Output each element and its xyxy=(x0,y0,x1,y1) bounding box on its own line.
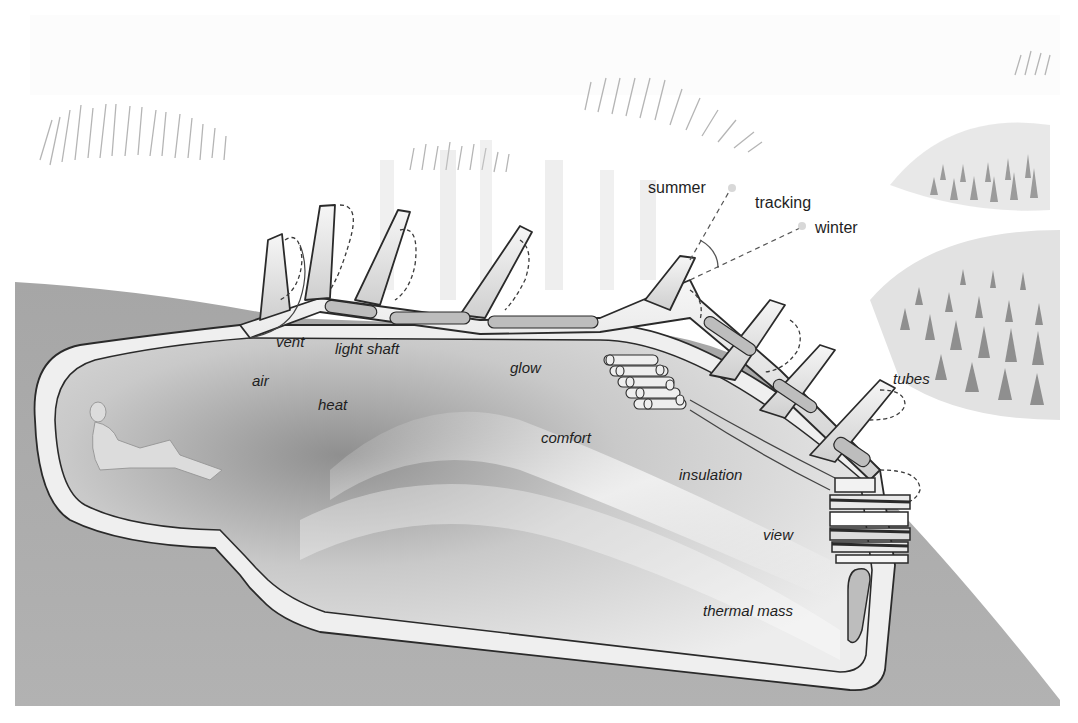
winter-sun-marker xyxy=(798,222,806,230)
light-streaks xyxy=(380,140,656,300)
label-winter: winter xyxy=(815,220,858,236)
label-vent: vent xyxy=(276,334,304,349)
label-insulation: insulation xyxy=(679,467,742,482)
window-layers xyxy=(830,478,910,563)
label-summer: summer xyxy=(648,180,706,196)
vegetation-left xyxy=(40,104,226,165)
reed-field-right-bottom xyxy=(870,230,1060,420)
label-tubes: tubes xyxy=(893,371,930,386)
label-heat: heat xyxy=(318,397,347,412)
vegetation-mid xyxy=(410,142,509,172)
label-comfort: comfort xyxy=(541,430,591,445)
label-view: view xyxy=(763,527,793,542)
tracking-arc xyxy=(700,240,718,268)
label-glow: glow xyxy=(510,360,541,375)
label-air: air xyxy=(252,373,269,388)
sky-hatching xyxy=(30,15,1060,95)
summer-sun-marker xyxy=(728,184,736,192)
label-tracking: tracking xyxy=(755,195,811,211)
label-thermal-mass: thermal mass xyxy=(703,603,793,618)
reed-field-right-top xyxy=(890,123,1050,211)
label-light-shaft: light shaft xyxy=(335,341,399,356)
